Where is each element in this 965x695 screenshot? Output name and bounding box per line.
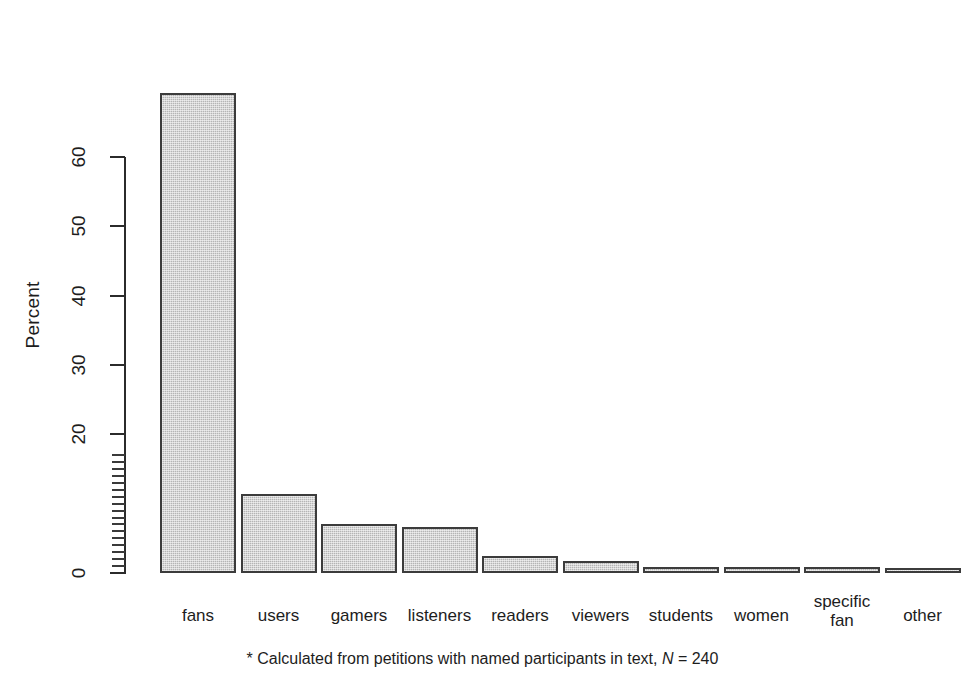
y-axis-tick-label: 50 [68,203,90,249]
footnote: * Calculated from petitions with named p… [0,650,965,668]
bar-chart-figure: Percent 02030405060 fansusersgamersliste… [0,0,965,695]
y-axis-major-tick [110,364,125,366]
plot-area [124,20,944,573]
x-axis-tick-label: other [868,606,965,625]
x-axis-tick-label-line1: other [868,606,965,625]
bar-fans[interactable] [160,93,236,573]
y-axis-major-tick [110,433,125,435]
bar-users[interactable] [241,494,317,573]
bar-women[interactable] [724,567,800,573]
footnote-n-symbol: N [662,650,674,667]
bar-students[interactable] [643,567,719,573]
y-axis-tick-label: 30 [68,342,90,388]
y-axis-tick-label: 40 [68,273,90,319]
bar-gamers[interactable] [321,524,397,573]
y-axis-title: Percent [22,120,44,250]
y-axis-major-tick [110,295,125,297]
y-axis-major-tick [110,572,125,574]
y-axis-major-tick [110,225,125,227]
footnote-n-value: = 240 [673,650,718,667]
y-axis-tick-label: 20 [68,411,90,457]
bar-specific-fan[interactable] [804,567,880,573]
bar-viewers[interactable] [563,561,639,573]
y-axis-tick-label: 0 [68,550,90,596]
y-axis-major-tick [110,156,125,158]
bar-readers[interactable] [482,556,558,573]
bar-other[interactable] [885,568,961,573]
y-axis-tick-label: 60 [68,134,90,180]
footnote-text: Calculated from petitions with named par… [253,650,662,667]
y-axis-title-text: Percent [22,250,44,380]
bar-listeners[interactable] [402,527,478,573]
